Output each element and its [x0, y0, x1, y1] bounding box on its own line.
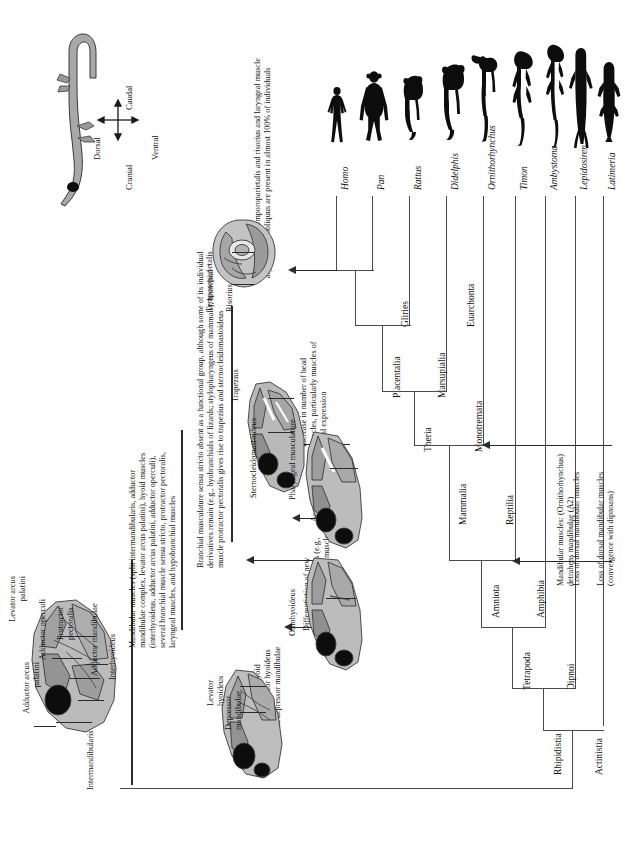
muscle-label-intermandibularis: Intermandibularis: [86, 730, 96, 790]
arrow-detrahens-line: [490, 445, 612, 446]
stem-euarchonta: [355, 270, 356, 326]
stem-amniota: [481, 560, 482, 628]
leader-omohyoideus: [326, 598, 356, 599]
muscle-label-protractor-pectoralis: Protractor pectoralis: [56, 582, 77, 640]
silhouette-ambystoma: [537, 40, 569, 148]
clade-label-mammalia: Mammalia: [458, 484, 469, 525]
muscle-label-adductor-operculi: Adductor operculi: [38, 599, 48, 660]
node-root: [543, 730, 604, 731]
anatomy-primate-head: [208, 214, 280, 292]
clade-label-dipnoi: Dipnoi: [566, 664, 577, 690]
muscle-label-adductor-arcus-palatini: Adductor arcus palatini: [22, 662, 43, 724]
muscle-label-adductor-mandibulae: Adductor mandibulae: [90, 603, 100, 676]
leader-trapezius: [268, 398, 294, 399]
branch-pan: [372, 196, 373, 271]
whole-animal-diagram: [56, 26, 104, 216]
muscle-label-levator-arcus-palatini: Levator arcus palatini: [8, 576, 29, 634]
clade-label-tetrapoda: Tetrapoda: [522, 652, 533, 690]
branch-ambystoma: [545, 196, 546, 628]
stem-placentalia: [382, 325, 383, 392]
clade-label-reptilia: Reptilia: [505, 495, 516, 525]
silhouette-timon: [504, 46, 538, 146]
leader-risorius: [232, 284, 254, 285]
anatomy-reptile-head-pharyngeal: [300, 426, 368, 554]
silhouette-latimeria: [596, 58, 622, 142]
clade-label-theria: Theria: [423, 427, 434, 452]
compass-label-ventral: Ventral: [150, 135, 160, 160]
stem-mammalia: [449, 445, 450, 561]
clade-label-euarchonta: Euarchonta: [466, 284, 477, 327]
leader-temporoparietalis: [232, 252, 254, 253]
muscle-label-interhyoideus: Interhyoideus: [108, 634, 118, 680]
silhouette-didelphis: [434, 60, 470, 140]
node-tetrapoda: [481, 627, 546, 628]
muscle-label-depressor-mandibulae: Depressor mandibulae: [224, 674, 245, 730]
annotation-mandibular-muscles-list: Mandibular muscles (split intermandibula…: [128, 448, 178, 648]
rule-upper: [231, 306, 233, 542]
muscle-label-temporoparietalis: Temporoparietalis: [205, 251, 215, 312]
leader-pharyngeal-musculature: [330, 468, 358, 469]
tip-label-ornithorhynchus: Ornithorhynchus: [487, 125, 498, 190]
node-amniota: [449, 560, 516, 561]
silhouette-rattus: [396, 72, 430, 140]
leader-protractor-pectoralis: [78, 700, 104, 701]
leader-interhyoideus: [56, 722, 92, 723]
annotation-loss-dorsal-mandibular: Loss of dorsal mandibular muscles: [572, 470, 582, 586]
clade-label-amphibia: Amphibia: [536, 580, 547, 618]
arrow-facial-head: [288, 266, 296, 274]
muscle-label-trapezius: Trapezius: [231, 369, 241, 402]
silhouette-lepidosiren: [567, 44, 595, 148]
clade-label-actinistia: Actinistia: [594, 738, 605, 775]
anatomy-amphibian-head-omohyoideus: [300, 552, 368, 674]
annotation-loss-dorsal-dipnoan: Loss of dorsal mandibular muscles (conve…: [596, 446, 616, 586]
muscle-label-risorius: Risorius: [225, 284, 235, 312]
figure-canvas: Homo Pan Rattus Didelphis Ornithorhynchu…: [0, 0, 631, 845]
arrow-detrahens-head: [482, 441, 490, 449]
compass-label-caudal: Caudal: [124, 86, 134, 110]
arrow-loss-dipnoan-head: [512, 557, 520, 565]
tip-label-timon: Timon: [519, 166, 530, 190]
clade-label-gliries: Gliries: [400, 301, 411, 327]
muscle-label-sternocleidomastoideus: Sternocleidomastoideus: [249, 418, 259, 498]
silhouette-pan: [357, 66, 395, 142]
leader-intermandibularis: [34, 726, 56, 727]
arrow-branchial-head: [246, 556, 254, 564]
tip-label-lepidosiren: Lepidosiren: [579, 145, 590, 190]
tip-label-homo: Homo: [340, 167, 351, 190]
tip-label-latimeria: Latimeria: [607, 153, 618, 190]
tip-label-pan: Pan: [376, 175, 387, 190]
tip-label-ambystoma: Ambystoma: [549, 146, 560, 190]
leader-adductor-arcus-palatini: [52, 658, 82, 659]
arrow-pharyngeal-head: [292, 514, 300, 522]
leader-sternocleidomastoideus: [268, 432, 294, 433]
stem-theria: [414, 391, 415, 446]
muscle-label-omohyoideus: Omohyoideus: [288, 589, 298, 636]
tip-label-didelphis: Didelphis: [450, 153, 461, 190]
compass-label-cranial: Cranial: [124, 165, 134, 190]
rule-mid: [181, 430, 183, 630]
stem-root: [572, 730, 573, 788]
stem-tetrapoda: [512, 627, 513, 689]
tip-label-rattus: Rattus: [413, 166, 424, 190]
arrow-facial-line: [296, 270, 338, 271]
clade-label-amniota: Amniota: [491, 585, 502, 618]
root-baseline: [120, 788, 573, 789]
silhouette-homo: [322, 86, 352, 144]
clade-label-rhipidistia: Rhipidistia: [553, 733, 564, 775]
leader-adductor-operculi: [70, 678, 100, 679]
branch-homo: [336, 196, 337, 271]
stem-rhipidistia: [543, 688, 544, 730]
